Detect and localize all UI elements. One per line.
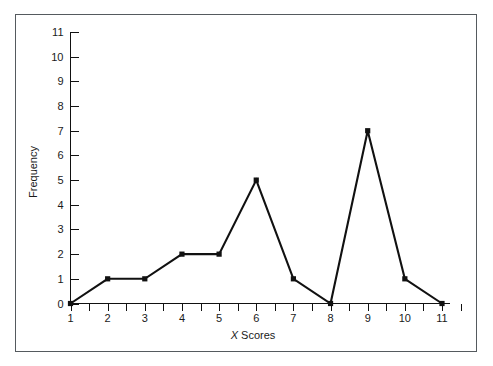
x-tick-label-10: 10 — [399, 312, 411, 324]
y-axis-ticks — [71, 33, 79, 305]
y-tick-label-0: 0 — [57, 298, 63, 310]
y-tick-label-4: 4 — [57, 199, 63, 211]
y-tick-label-1: 1 — [57, 273, 63, 285]
data-point-x1-y0 — [68, 301, 73, 306]
y-tick-label-10: 10 — [51, 51, 63, 63]
frequency-polygon-chart: 01234567891011 1234567891011 Frequency X… — [0, 0, 493, 366]
data-point-x4-y2 — [179, 252, 184, 257]
data-point-x6-y5 — [254, 177, 259, 182]
x-tick-label-4: 4 — [179, 312, 185, 324]
data-point-x5-y2 — [217, 252, 222, 257]
x-tick-label-7: 7 — [290, 312, 296, 324]
data-point-x8-y0 — [328, 301, 333, 306]
y-tick-label-7: 7 — [57, 125, 63, 137]
x-axis-ticks — [72, 304, 462, 311]
data-point-x11-y0 — [439, 301, 444, 306]
data-point-x3-y1 — [142, 276, 147, 281]
x-axis-title: X Scores — [230, 329, 276, 341]
y-tick-label-9: 9 — [57, 75, 63, 87]
x-axis-tick-labels: 1234567891011 — [67, 312, 447, 324]
data-point-x9-y7 — [365, 128, 370, 133]
y-tick-label-5: 5 — [57, 174, 63, 186]
data-line — [71, 131, 443, 304]
x-tick-label-5: 5 — [216, 312, 222, 324]
x-tick-label-11: 11 — [436, 312, 447, 324]
x-tick-label-3: 3 — [142, 312, 148, 324]
y-tick-label-8: 8 — [57, 100, 63, 112]
data-point-x2-y1 — [105, 276, 110, 281]
y-axis-tick-labels: 01234567891011 — [51, 26, 63, 310]
x-tick-label-1: 1 — [67, 312, 73, 324]
y-tick-label-3: 3 — [57, 223, 63, 235]
data-point-x7-y1 — [291, 276, 296, 281]
x-tick-label-9: 9 — [365, 312, 371, 324]
y-tick-label-6: 6 — [57, 149, 63, 161]
y-tick-label-11: 11 — [52, 26, 63, 38]
x-tick-label-6: 6 — [253, 312, 259, 324]
y-axis-title: Frequency — [27, 146, 39, 198]
data-point-x10-y1 — [402, 276, 407, 281]
y-tick-label-2: 2 — [57, 248, 63, 260]
x-tick-label-8: 8 — [327, 312, 333, 324]
x-tick-label-2: 2 — [105, 312, 111, 324]
x-axis-title-rest: Scores — [238, 329, 276, 341]
